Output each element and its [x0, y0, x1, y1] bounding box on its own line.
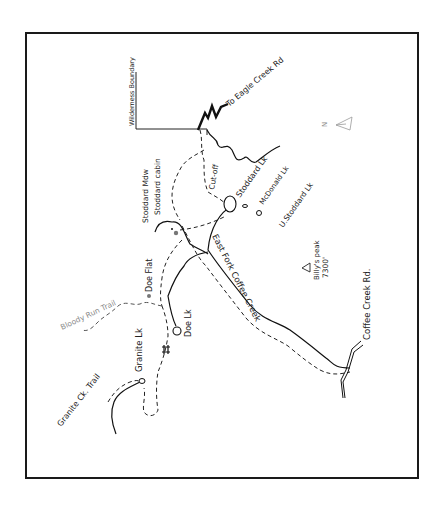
label-billys-peak: Billy's peak [313, 239, 321, 280]
small-pond [243, 205, 248, 208]
label-doe-lk: Doe Lk [184, 309, 193, 337]
label-wilderness-boundary: Wilderness Boundary [128, 57, 136, 126]
label-billys-peak-elev: 7300' [321, 257, 330, 278]
doe-lk [173, 327, 181, 335]
doe-flat-marker [147, 294, 151, 298]
label-coffee-creek-rd: Coffee Creek Rd. [362, 269, 372, 340]
label-doe-flat: Doe Flat [145, 259, 154, 292]
stoddard-mdw-marker [171, 228, 173, 230]
trail-map: N Wilderness Boundary To Eagle Creek Rd … [0, 0, 443, 510]
stoddard-lk [224, 196, 236, 212]
label-stoddard-cabin: Stoddard cabin [153, 158, 162, 215]
label-stoddard-mdw: Stoddard Mdw [141, 169, 150, 223]
label-granite-lk: Granite Lk [134, 328, 144, 372]
north-label: N [321, 122, 329, 127]
stoddard-cabin-marker [174, 231, 178, 235]
granite-lk [139, 379, 145, 384]
mcdonald-lk [257, 211, 262, 216]
